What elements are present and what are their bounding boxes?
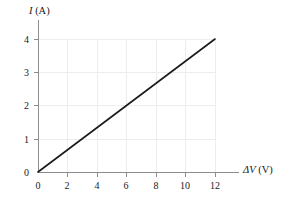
x-tick-4 bbox=[97, 172, 98, 177]
y-axis-title: I (A) bbox=[29, 5, 50, 16]
x-axis-symbol: ΔV bbox=[243, 164, 256, 175]
x-tick-8 bbox=[156, 172, 157, 177]
y-axis-line bbox=[38, 20, 39, 172]
x-tick-12 bbox=[215, 172, 216, 177]
x-ticklabel-12: 12 bbox=[210, 180, 220, 191]
x-ticklabel-10: 10 bbox=[180, 180, 190, 191]
gridline-x-6 bbox=[126, 39, 127, 172]
gridline-x-10 bbox=[185, 39, 186, 172]
gridline-x-8 bbox=[156, 39, 157, 172]
x-ticklabel-6: 6 bbox=[124, 180, 129, 191]
y-ticklabel-0: 0 bbox=[24, 167, 29, 178]
y-axis-unit: (A) bbox=[35, 5, 50, 16]
x-axis-title: ΔV (V) bbox=[243, 164, 273, 175]
y-ticklabel-2: 2 bbox=[24, 100, 29, 111]
x-ticklabel-0: 0 bbox=[36, 180, 41, 191]
x-axis-unit: (V) bbox=[258, 164, 273, 175]
plot-area bbox=[38, 39, 215, 172]
gridline-x-2 bbox=[67, 39, 68, 172]
y-tick-2 bbox=[34, 105, 39, 106]
y-ticklabel-3: 3 bbox=[24, 67, 29, 78]
gridline-x-12 bbox=[215, 39, 216, 172]
x-tick-6 bbox=[126, 172, 127, 177]
y-tick-3 bbox=[34, 72, 39, 73]
x-tick-10 bbox=[185, 172, 186, 177]
y-ticklabel-1: 1 bbox=[24, 134, 29, 145]
x-ticklabel-2: 2 bbox=[65, 180, 70, 191]
y-tick-4 bbox=[34, 39, 39, 40]
y-axis-symbol: I bbox=[29, 5, 33, 16]
x-ticklabel-8: 8 bbox=[154, 180, 159, 191]
gridline-x-4 bbox=[97, 39, 98, 172]
x-ticklabel-4: 4 bbox=[95, 180, 100, 191]
x-tick-2 bbox=[67, 172, 68, 177]
y-ticklabel-4: 4 bbox=[24, 34, 29, 45]
x-axis-line bbox=[38, 172, 239, 173]
chart-figure: 4 3 2 1 0 0 2 4 6 8 10 12 I (A) ΔV (V) bbox=[0, 0, 295, 203]
y-tick-1 bbox=[34, 139, 39, 140]
